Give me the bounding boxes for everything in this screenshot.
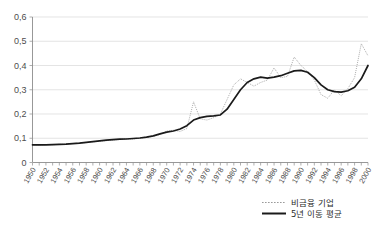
legend-label-five-year-moving-average: 5년 이동 평균	[291, 209, 342, 219]
line-chart: 00,10,20,30,40,50,6 19501952195419561958…	[0, 0, 375, 227]
x-tick-label: 1950	[22, 166, 38, 185]
y-tick-label: 0,3	[14, 85, 27, 95]
x-tick-label: 1958	[75, 166, 91, 185]
x-tick-label: 1960	[89, 166, 105, 185]
x-tick-label: 1998	[344, 166, 360, 185]
x-tick-label: 1970	[156, 166, 172, 185]
x-tick-label: 1992	[303, 166, 319, 185]
x-tick-label: 2000	[357, 166, 373, 185]
x-tick-label: 1986	[263, 166, 279, 185]
x-tick-label: 1976	[196, 166, 212, 185]
x-tick-label: 1990	[290, 166, 306, 185]
x-tick-label: 1968	[142, 166, 158, 185]
x-tick-label: 1988	[277, 166, 293, 185]
y-tick-label: 0	[21, 158, 26, 168]
series-line-five-year-moving-average	[33, 66, 369, 145]
data-series	[33, 44, 369, 146]
series-line-non-financial-corporations	[33, 44, 369, 146]
x-axis-ticks: 1950195219541956195819601962196419661968…	[22, 163, 374, 185]
legend-label-non-financial-corporations: 비금융 기업	[291, 198, 334, 208]
y-tick-label: 0,1	[14, 133, 27, 143]
x-tick-label: 1962	[102, 166, 118, 185]
x-tick-label: 1984	[250, 166, 266, 185]
x-tick-label: 1994	[317, 166, 333, 185]
x-tick-label: 1964	[116, 166, 132, 185]
x-tick-label: 1980	[223, 166, 239, 185]
y-tick-label: 0,6	[14, 12, 27, 22]
y-tick-label: 0,2	[14, 109, 27, 119]
gridlines	[33, 17, 369, 138]
x-tick-label: 1956	[62, 166, 78, 185]
x-tick-label: 1972	[169, 166, 185, 185]
y-axis-ticks: 00,10,20,30,40,50,6	[14, 12, 33, 168]
x-tick-label: 1978	[209, 166, 225, 185]
x-tick-label: 1954	[48, 166, 64, 185]
legend: 비금융 기업 5년 이동 평균	[262, 198, 342, 219]
x-tick-label: 1982	[236, 166, 252, 185]
y-tick-label: 0,5	[14, 36, 27, 46]
x-tick-label: 1996	[330, 166, 346, 185]
chart-canvas: 00,10,20,30,40,50,6 19501952195419561958…	[0, 0, 375, 227]
x-tick-label: 1966	[129, 166, 145, 185]
x-tick-label: 1974	[183, 166, 199, 185]
x-tick-label: 1952	[35, 166, 51, 185]
y-tick-label: 0,4	[14, 61, 27, 71]
